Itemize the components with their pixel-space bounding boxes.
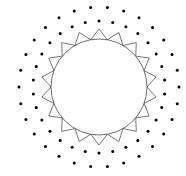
sun-diagram-svg <box>0 0 186 176</box>
dot <box>171 53 174 56</box>
dot <box>84 150 87 153</box>
dot <box>71 146 74 149</box>
dot <box>58 155 61 158</box>
dot <box>106 6 109 9</box>
dot <box>178 86 181 89</box>
dot <box>32 92 35 95</box>
dot <box>176 69 179 72</box>
dot <box>40 53 43 56</box>
dot <box>124 25 127 28</box>
dot <box>176 102 179 105</box>
dot <box>40 119 43 122</box>
dot <box>35 65 38 68</box>
dot <box>160 106 163 109</box>
dot <box>44 26 47 29</box>
dot <box>155 119 158 122</box>
dot <box>160 65 163 68</box>
dot <box>18 86 21 89</box>
dot <box>122 9 125 12</box>
dot <box>73 162 76 165</box>
dot <box>136 139 139 142</box>
dot <box>111 150 114 153</box>
dot <box>73 9 76 12</box>
dot <box>155 53 158 56</box>
dot <box>106 165 109 168</box>
dot <box>58 16 61 19</box>
dot <box>33 38 36 41</box>
dot <box>44 145 47 148</box>
triangle-ray <box>91 134 108 145</box>
dot <box>48 41 51 44</box>
dot <box>59 32 62 35</box>
sun-diagram <box>0 0 186 176</box>
dot <box>147 41 150 44</box>
dot <box>124 146 127 149</box>
dot <box>163 92 166 95</box>
dot <box>59 139 62 142</box>
dot <box>147 130 150 133</box>
dot <box>32 79 35 82</box>
dot <box>98 20 101 23</box>
dot <box>151 145 154 148</box>
dot <box>151 26 154 29</box>
dot <box>24 53 27 56</box>
dot <box>163 79 166 82</box>
triangle-ray <box>91 29 108 40</box>
dot <box>89 6 92 9</box>
dot <box>138 155 141 158</box>
dot <box>138 16 141 19</box>
dot <box>162 133 165 136</box>
dot <box>162 38 165 41</box>
dot <box>98 152 101 155</box>
dot <box>122 162 125 165</box>
dot <box>33 133 36 136</box>
dot <box>19 102 22 105</box>
dot <box>171 118 174 121</box>
dot <box>84 21 87 24</box>
dot <box>35 106 38 109</box>
dot <box>19 69 22 72</box>
center-circle <box>51 39 147 135</box>
dot <box>48 130 51 133</box>
dot <box>24 118 27 121</box>
dot <box>71 25 74 28</box>
dot <box>111 21 114 24</box>
dot <box>89 165 92 168</box>
dot <box>136 32 139 35</box>
